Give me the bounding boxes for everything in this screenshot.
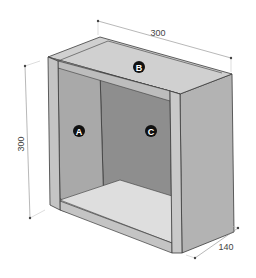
cabinet-diagram: 300 300 140 A B C	[0, 0, 256, 278]
marker-B-label: B	[136, 63, 143, 73]
width-label: 300	[150, 28, 165, 38]
right-front-edge	[170, 91, 182, 253]
right-side-outer-face	[180, 74, 234, 253]
depth-label: 140	[218, 242, 233, 252]
left-front-edge	[48, 57, 60, 210]
marker-C: C	[145, 125, 157, 137]
marker-C-label: C	[148, 127, 155, 137]
marker-A: A	[73, 125, 85, 137]
marker-B: B	[133, 61, 145, 73]
marker-A-label: A	[76, 127, 83, 137]
height-dimension: 300	[16, 61, 45, 219]
height-label: 300	[16, 136, 26, 151]
